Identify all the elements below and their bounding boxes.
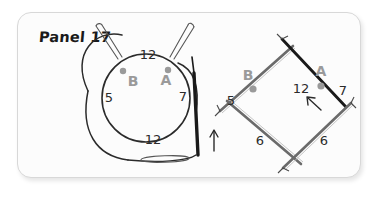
- needle-point-bottom: [278, 168, 289, 173]
- needle-point-left: [215, 105, 220, 116]
- stitch-count-lower-right: 6: [320, 133, 328, 148]
- dpn-diamond-diagram: 12 5 7 6 6 B A: [18, 13, 361, 178]
- marker-dot-b: [249, 85, 256, 92]
- dpn-needle-upper-right: [282, 39, 346, 107]
- marker-label-a: A: [316, 63, 327, 79]
- panel-card: Panel 17 12 5 7: [17, 12, 361, 178]
- stitch-count-upper-right: 7: [339, 83, 347, 98]
- stitch-count-upper-left: 5: [227, 93, 235, 108]
- stitch-count-top: 12: [293, 81, 310, 96]
- needle-point-top: [277, 34, 288, 39]
- dpn-needle-lower-left: [227, 99, 303, 164]
- stitch-count-lower-left: 6: [256, 133, 264, 148]
- direction-arrow: [307, 97, 321, 110]
- dpn-needle-lower-right: [283, 103, 353, 170]
- marker-dot-a: [317, 82, 324, 89]
- marker-label-b: B: [243, 67, 254, 83]
